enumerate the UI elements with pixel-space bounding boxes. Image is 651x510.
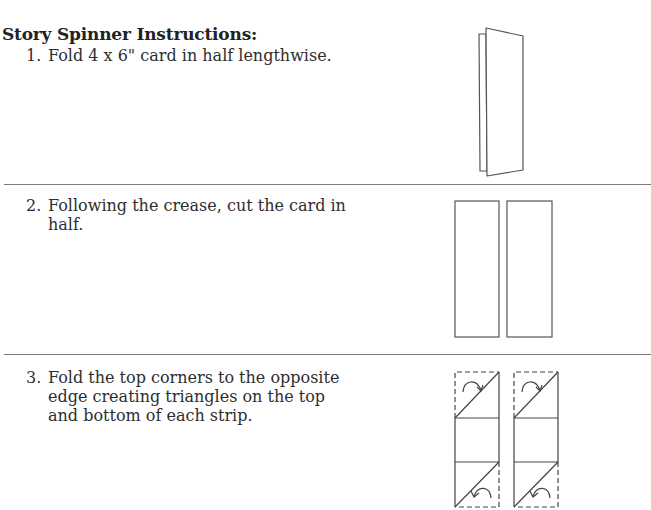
strip-left	[455, 201, 499, 337]
arrow-curve-icon	[522, 382, 540, 392]
arrow-curve-icon	[463, 382, 481, 392]
arrow-curve-icon	[533, 488, 550, 498]
illustrations	[0, 0, 651, 510]
top-fold-diagonal	[455, 372, 499, 418]
bottom-fold-diagonal	[514, 462, 558, 507]
card-front-panel	[486, 28, 523, 176]
two-strips-illustration	[455, 201, 552, 337]
strip-left-folded	[455, 372, 499, 507]
folded-corner-strips-illustration	[455, 372, 558, 507]
strip-right-folded	[514, 372, 558, 507]
top-fold-diagonal	[514, 372, 558, 418]
strip-right	[507, 201, 552, 337]
bottom-fold-diagonal	[455, 462, 499, 507]
arrow-curve-icon	[474, 488, 491, 498]
folded-card-illustration	[479, 28, 523, 176]
